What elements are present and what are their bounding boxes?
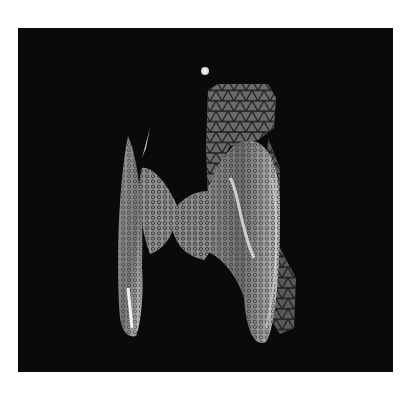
image-frame: [18, 28, 393, 372]
specimen-render: [18, 28, 393, 372]
bright-dot: [201, 67, 209, 75]
left-blade: [118, 136, 142, 336]
center-lobe: [170, 191, 217, 260]
left-inner-lobe: [139, 128, 178, 254]
